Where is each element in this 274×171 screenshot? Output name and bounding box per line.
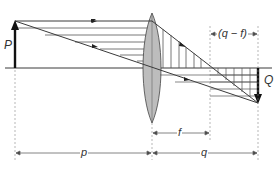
image-label: Q xyxy=(263,75,274,86)
object-distance-label: p xyxy=(80,147,88,158)
object-label: P xyxy=(3,40,13,51)
lens-diagram: P Q (q − f) f p q xyxy=(0,0,274,171)
image-side-grid-hatching xyxy=(210,68,258,97)
lens-to-focus-hatching xyxy=(163,29,201,68)
focal-length-label: f xyxy=(177,127,182,138)
lower-ray-hatching xyxy=(160,75,258,82)
extension-lines xyxy=(15,26,258,160)
image-distance-label: q xyxy=(200,147,208,158)
dimension-lines xyxy=(16,32,257,155)
lens-diagram-svg xyxy=(0,0,274,171)
image-minus-focal-label: (q − f) xyxy=(217,28,248,39)
